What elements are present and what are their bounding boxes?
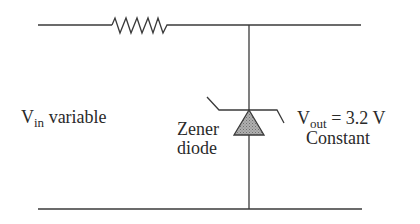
- output-description-label: Constant: [306, 129, 370, 147]
- input-voltage-label: Vin variable: [21, 108, 107, 126]
- vout-equation: = 3.2 V: [331, 108, 385, 128]
- resistor-icon: [112, 18, 172, 33]
- vin-subscript: in: [34, 115, 44, 130]
- zener-label-line1: Zener: [177, 120, 219, 139]
- zener-diode-triangle-icon: [234, 110, 264, 135]
- zener-label-line2: diode: [177, 139, 219, 158]
- vin-symbol: V: [21, 107, 34, 127]
- output-voltage-label: Vout = 3.2 V: [297, 109, 385, 127]
- zener-diode-label: Zenerdiode: [177, 120, 219, 158]
- vout-symbol: V: [297, 108, 310, 128]
- vin-description: variable: [49, 107, 107, 127]
